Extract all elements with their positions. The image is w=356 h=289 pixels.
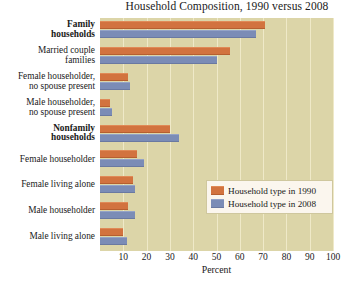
y-axis-label-line: Male householder	[0, 206, 95, 216]
bar-2008	[100, 134, 179, 142]
bar-2008	[100, 108, 112, 116]
chart-title: Household Composition, 1990 versus 2008	[98, 0, 356, 12]
legend-item: Household type in 2008	[211, 197, 328, 210]
x-axis-tick: 50	[212, 252, 222, 262]
bar-group	[100, 147, 333, 173]
y-axis-label: Female householder,no spouse present	[0, 72, 95, 91]
x-axis-tick: 30	[165, 252, 175, 262]
bar-2008	[100, 185, 135, 193]
plot-area	[100, 18, 333, 251]
y-axis-label: Familyhouseholds	[0, 20, 95, 39]
bar-1990	[100, 228, 123, 236]
bar-1990	[100, 73, 128, 81]
bar-2008	[100, 159, 144, 167]
x-axis-tick: 100	[326, 252, 340, 262]
y-axis-label: Nonfamilyhouseholds	[0, 124, 95, 143]
y-axis-label: Female householder	[0, 155, 95, 165]
x-axis-tick: 40	[188, 252, 198, 262]
bar-2008	[100, 82, 130, 90]
bar-1990	[100, 125, 170, 133]
bar-group	[100, 96, 333, 122]
bar-group	[100, 70, 333, 96]
bar-1990	[100, 47, 230, 55]
bar-group	[100, 225, 333, 251]
y-axis-label-line: Male living alone	[0, 232, 95, 242]
y-axis-label-line: Female householder	[0, 155, 95, 165]
x-axis-tick: 20	[142, 252, 152, 262]
legend-item: Household type in 1990	[211, 184, 328, 197]
bar-2008	[100, 211, 135, 219]
bar-2008	[100, 30, 256, 38]
chart-container: Household Composition, 1990 versus 2008 …	[0, 0, 356, 289]
y-axis-label: Male living alone	[0, 232, 95, 242]
bar-1990	[100, 202, 128, 210]
y-axis-label-line: no spouse present	[0, 108, 95, 118]
legend-items: Household type in 1990Household type in …	[211, 184, 328, 210]
gridline	[333, 18, 334, 251]
bar-group	[100, 122, 333, 148]
bar-2008	[100, 56, 217, 64]
bar-1990	[100, 99, 110, 107]
legend-label: Household type in 1990	[228, 186, 316, 196]
bar-1990	[100, 21, 265, 29]
legend-label: Household type in 2008	[228, 199, 316, 209]
y-axis-label: Male householder	[0, 206, 95, 216]
x-axis-tick: 70	[258, 252, 268, 262]
legend-swatch	[211, 199, 224, 208]
x-axis-tick: 60	[235, 252, 245, 262]
bar-1990	[100, 150, 137, 158]
bar-2008	[100, 237, 127, 245]
legend-swatch	[211, 186, 224, 195]
y-axis-label-line: Female living alone	[0, 180, 95, 190]
chart-legend: Household type in 1990Household type in …	[206, 180, 333, 214]
y-axis-label-line: families	[0, 56, 95, 66]
y-axis-label-line: households	[0, 30, 95, 40]
y-axis-label: Married couplefamilies	[0, 46, 95, 65]
bar-1990	[100, 176, 133, 184]
x-axis-tick: 10	[119, 252, 129, 262]
bar-group	[100, 18, 333, 44]
y-axis-label: Female living alone	[0, 180, 95, 190]
x-axis-tick: 80	[282, 252, 292, 262]
y-axis-labels: FamilyhouseholdsMarried couplefamiliesFe…	[0, 18, 98, 251]
x-axis-label: Percent	[100, 264, 333, 275]
y-axis-label-line: no spouse present	[0, 82, 95, 92]
y-axis-label-line: households	[0, 133, 95, 143]
y-axis-label: Male householder,no spouse present	[0, 98, 95, 117]
x-axis-tick: 90	[305, 252, 315, 262]
bar-group	[100, 44, 333, 70]
